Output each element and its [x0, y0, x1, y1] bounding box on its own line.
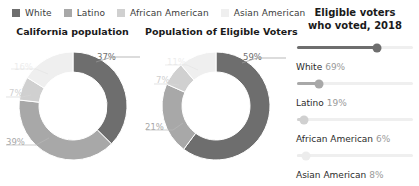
slider-knob[interactable] — [302, 151, 311, 160]
slider-row-white[interactable]: White69% — [296, 46, 414, 74]
legend-item-white: White — [12, 8, 52, 18]
donut-slice-white — [73, 52, 127, 144]
eligible-voters-panel: Eligible voters who voted, 2018 White69%… — [296, 6, 414, 182]
panel-title-line2: who voted, 2018 — [296, 19, 414, 32]
legend-label: African American — [130, 8, 209, 18]
panel-title-line1: Eligible voters — [296, 6, 414, 19]
slider-value: 69% — [325, 62, 345, 72]
slice-label-african-american: 7% — [156, 75, 170, 85]
slider-row-african-american[interactable]: African American6% — [296, 118, 414, 146]
legend-swatch-icon — [64, 9, 72, 17]
slider-label: Asian American — [296, 170, 366, 180]
slider-caption: Latino19% — [296, 91, 414, 110]
slider-track[interactable] — [297, 46, 413, 49]
slice-label-white: 59% — [243, 52, 262, 62]
slider-knob[interactable] — [299, 115, 308, 124]
slice-label-white: 37% — [97, 52, 116, 62]
chart-title: Population of Eligible Voters — [143, 26, 288, 38]
donut-charts-area: California population 37% 39% 7% 16% Pop… — [0, 26, 290, 186]
slider-knob[interactable] — [315, 79, 324, 88]
legend-label: Asian American — [234, 8, 306, 18]
chart-eligible-voters-population: Population of Eligible Voters 59% 21% 7%… — [143, 26, 288, 186]
slider-caption: Asian American8% — [296, 163, 414, 182]
slider-track[interactable] — [297, 82, 413, 85]
panel-title: Eligible voters who voted, 2018 — [296, 6, 414, 32]
chart-legend: White Latino African American Asian Amer… — [12, 6, 317, 20]
slider-value: 8% — [369, 170, 383, 180]
legend-item-asian-american: Asian American — [221, 8, 306, 18]
donut-slice-latino — [18, 100, 110, 160]
donut-wrap: 37% 39% 7% 16% — [0, 38, 145, 178]
slider-track[interactable] — [297, 118, 413, 121]
legend-swatch-icon — [221, 9, 229, 17]
legend-swatch-icon — [12, 9, 20, 17]
chart-title: California population — [0, 26, 145, 38]
legend-label: Latino — [77, 8, 105, 18]
legend-item-african-american: African American — [117, 8, 209, 18]
legend-label: White — [25, 8, 52, 18]
legend-swatch-icon — [117, 9, 125, 17]
slider-value: 6% — [376, 134, 390, 144]
slider-track[interactable] — [297, 154, 413, 157]
legend-item-latino: Latino — [64, 8, 105, 18]
slider-knob[interactable] — [373, 43, 382, 52]
slice-label-african-american: 7% — [9, 88, 23, 98]
slider-label: White — [296, 62, 322, 72]
slice-label-asian-american: 16% — [14, 62, 33, 72]
slice-label-latino: 39% — [6, 137, 25, 147]
donut-slice-latino — [162, 84, 196, 149]
slider-fill — [297, 46, 377, 49]
slider-row-asian-american[interactable]: Asian American8% — [296, 154, 414, 182]
slider-caption: African American6% — [296, 127, 414, 146]
chart-california-population: California population 37% 39% 7% 16% — [0, 26, 145, 186]
slider-label: Latino — [296, 98, 324, 108]
slider-value: 19% — [327, 98, 347, 108]
slider-label: African American — [296, 134, 373, 144]
slice-label-asian-american: 11% — [167, 57, 186, 67]
donut-wrap: 59% 21% 7% 11% — [143, 38, 288, 178]
slice-label-latino: 21% — [145, 122, 164, 132]
slider-caption: White69% — [296, 55, 414, 74]
slider-row-latino[interactable]: Latino19% — [296, 82, 414, 110]
